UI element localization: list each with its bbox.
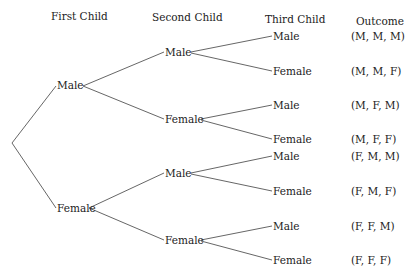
outcome-4: (M, F, F) [351,133,396,145]
node-second-female-2: Female [165,234,204,246]
node-third-8: Female [273,254,312,266]
node-second-male-2: Male [165,167,192,179]
header-outcome: Outcome [356,15,404,27]
outcome-1: (M, M, M) [351,30,405,42]
outcome-6: (F, M, F) [351,185,396,197]
outcome-5: (F, M, M) [351,150,400,162]
node-third-6: Female [273,185,312,197]
node-third-4: Female [273,133,312,145]
node-third-7: Male [273,220,300,232]
node-third-1: Male [273,30,300,42]
header-first-child: First Child [51,10,108,22]
outcome-3: (M, F, M) [351,99,400,111]
outcome-2: (M, M, F) [351,65,401,77]
outcome-8: (F, F, F) [351,254,391,266]
node-third-5: Male [273,150,300,162]
node-third-3: Male [273,99,300,111]
header-third-child: Third Child [265,13,325,25]
outcome-7: (F, F, M) [351,220,395,232]
header-second-child: Second Child [152,11,223,23]
node-third-2: Female [273,65,312,77]
node-second-male-1: Male [165,46,192,58]
node-second-female-1: Female [165,113,204,125]
node-first-male: Male [57,79,84,91]
node-first-female: Female [57,202,96,214]
